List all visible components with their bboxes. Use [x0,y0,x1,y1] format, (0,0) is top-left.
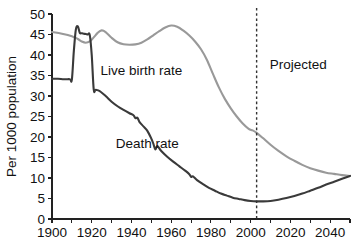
series-line-live-birth-rate [52,25,350,175]
x-tick-label: 2020 [275,225,305,240]
y-tick-label: 45 [30,27,45,42]
data-series [52,25,350,201]
projected-label: Projected [270,57,327,72]
y-tick-label: 5 [37,191,45,206]
chart-labels: Live birth rateDeath rateProjected [101,57,327,151]
x-tick-label: 1940 [116,225,146,240]
x-tick-label: 1920 [77,225,107,240]
y-tick-label: 50 [30,7,45,22]
y-tick-label: 25 [30,109,45,124]
x-tick-label: 1960 [156,225,186,240]
x-tick-label: 1980 [196,225,226,240]
x-tick-label: 1900 [37,225,67,240]
y-tick-label: 10 [30,171,45,186]
axes: 0510152025303540455019001920194019601980… [4,7,350,240]
x-tick-label: 2040 [315,225,345,240]
y-tick-label: 15 [30,150,45,165]
x-tick-label: 2000 [236,225,266,240]
y-tick-label: 35 [30,68,45,83]
vital-rates-line-chart: 0510152025303540455019001920194019601980… [0,0,357,249]
y-tick-label: 20 [30,130,45,145]
series-label-live-birth-rate: Live birth rate [101,63,183,78]
y-tick-label: 30 [30,89,45,104]
series-label-death-rate: Death rate [116,136,179,151]
y-tick-label: 40 [30,48,45,63]
chart-container: 0510152025303540455019001920194019601980… [0,0,357,249]
series-line-death-rate [52,26,350,201]
y-axis-title: Per 1000 population [4,56,19,177]
